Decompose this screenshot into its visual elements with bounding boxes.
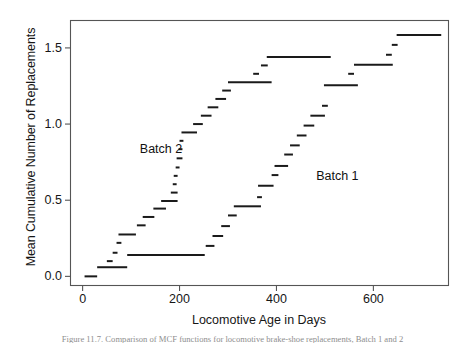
annotation-batch-2: Batch 2 [140, 142, 182, 156]
y-tick-label: 0.0 [28, 270, 62, 283]
x-tick-400: 400 [246, 293, 306, 306]
annotation-batch-1: Batch 1 [316, 169, 358, 183]
x-tick-0: 0 [53, 293, 113, 306]
y-tick-label: 1.0 [28, 118, 62, 131]
y-tick-label: 0.5 [28, 194, 62, 207]
y-tick-label: 1.5 [28, 42, 62, 55]
figure-caption: Figure 11.7. Comparison of MCF functions… [0, 334, 465, 343]
x-tick-600: 600 [343, 293, 403, 306]
series-2 [206, 35, 442, 246]
x-tick-200: 200 [150, 293, 210, 306]
plot-area [0, 0, 465, 343]
series-1 [85, 57, 331, 276]
figure-container: Mean Cumulative Number of Replacements L… [0, 0, 465, 343]
